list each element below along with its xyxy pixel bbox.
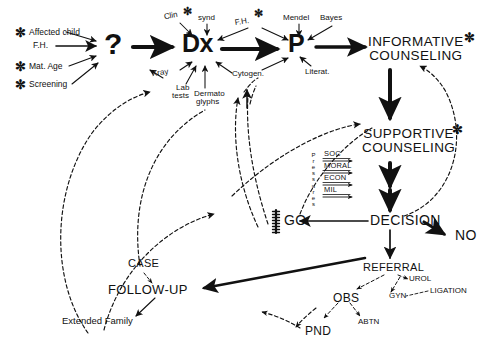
node-gyn: GYN — [389, 292, 406, 300]
node-pnd: PND — [305, 325, 331, 338]
gate-barred-go — [273, 210, 280, 233]
label-dermatoglyphs-line2: glyphs — [196, 98, 219, 106]
node-p: P — [288, 30, 304, 56]
edge-inputs-to-question — [56, 32, 98, 84]
edge-cytogen-feedback — [250, 86, 256, 104]
asterisk-icon-informative-counseling: ✼ — [464, 31, 475, 44]
asterisk-icon-maternal-age: ✼ — [15, 60, 26, 73]
asterisk-icon-supportive-counseling: ✼ — [452, 123, 463, 136]
label-literat: Literat. — [305, 68, 329, 76]
node-urol: UROL — [409, 275, 431, 283]
edges-referral-branches — [357, 275, 408, 292]
pressure-item-moral: MORAL — [324, 161, 352, 170]
asterisk-icon-screening: ✼ — [15, 78, 26, 91]
edge-feedback-mid-to-dx — [235, 98, 258, 227]
node-supportive-counseling: SUPPORTIVE COUNSELING — [362, 127, 455, 155]
node-ligation: LIGATION — [430, 287, 467, 295]
pressure-item-mil: MIL — [324, 185, 337, 194]
node-go: GO — [284, 213, 307, 228]
pressure-item-econ: ECON — [324, 173, 346, 182]
pressures-axis-label: P r e s s u r e s — [310, 152, 317, 207]
pressure-item-soc: SOC — [324, 149, 341, 158]
supportive-counseling-line2: COUNSELING — [362, 141, 455, 155]
input-family-history: F.H. — [33, 41, 48, 50]
informative-counseling-line2: COUNSELING — [368, 49, 464, 63]
asterisk-icon-affected-child: ✼ — [15, 26, 26, 39]
label-mendel: Mendel — [283, 14, 309, 22]
label-bayes: Bayes — [320, 14, 342, 22]
node-no: NO — [455, 228, 477, 243]
edge-referral-to-followup — [204, 258, 365, 288]
edge-feedback-go-to-p — [248, 96, 268, 224]
node-case: CASE — [128, 258, 159, 270]
label-synd: synd — [198, 14, 215, 22]
node-informative-counseling: INFORMATIVE COUNSELING — [368, 35, 464, 63]
asterisk-icon-fh-p: ✼ — [254, 8, 263, 19]
edge-pnd-feedback — [262, 312, 300, 328]
label-cytogen: Cytogen. — [232, 70, 264, 78]
node-decision: DECISION — [370, 213, 441, 228]
input-maternal-age: Mat. Age — [29, 62, 63, 71]
node-question: ? — [104, 28, 122, 60]
informative-counseling-line1: INFORMATIVE — [368, 35, 464, 49]
node-abtn: ABTN — [358, 318, 379, 326]
pressures-letter-8: s — [310, 201, 317, 207]
node-dx: Dx — [182, 30, 213, 56]
node-follow-up: FOLLOW-UP — [108, 283, 188, 297]
label-lab-tests-line2: tests — [172, 92, 189, 100]
input-screening: Screening — [29, 80, 67, 89]
node-obs: OBS — [333, 292, 359, 305]
node-extended-family: Extended Family — [62, 316, 133, 326]
edge-gyn-ligation — [406, 291, 428, 296]
edge-feedback-case-up — [138, 110, 205, 266]
asterisk-icon-clin: ✼ — [183, 6, 192, 17]
node-referral: REFERRAL — [363, 262, 424, 274]
edge-feedback-into-p — [244, 78, 258, 92]
input-affected-child: Affected child — [29, 28, 80, 37]
edge-feedback-pnd-left-arc — [104, 214, 214, 330]
supportive-counseling-line1: SUPPORTIVE — [362, 127, 455, 141]
diagram-canvas: ✼ Affected child F.H. ✼ Mat. Age ✼ Scree… — [0, 0, 502, 353]
edge-followup-to-extended-family — [136, 298, 155, 316]
edges-obs-branches — [324, 303, 360, 318]
